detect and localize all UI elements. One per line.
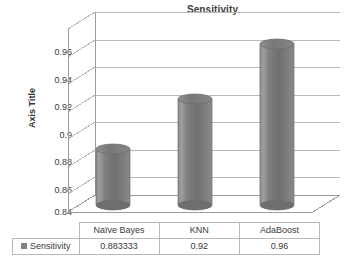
- table-row-values: Sensitivity 0.883333 0.92 0.96: [13, 239, 320, 255]
- bar-naive-bayes: [96, 144, 130, 210]
- table-value-adaboost: 0.96: [239, 239, 319, 255]
- gridline-0.96: [68, 40, 340, 57]
- legend-entry-sensitivity: Sensitivity: [13, 239, 80, 255]
- legend-swatch-icon: [21, 243, 27, 249]
- data-table: Naïve Bayes KNN AdaBoost Sensitivity 0.8…: [12, 222, 320, 255]
- table-header-knn: KNN: [159, 223, 239, 239]
- gridline-top: [68, 12, 340, 29]
- table-corner-cell: [13, 223, 80, 239]
- bar-knn: [178, 94, 212, 210]
- bar-adaboost: [260, 39, 294, 210]
- legend-label: Sensitivity: [30, 241, 71, 251]
- gridline-0.94: [68, 67, 340, 84]
- table-header-adaboost: AdaBoost: [239, 223, 319, 239]
- table-row-headers: Naïve Bayes KNN AdaBoost: [13, 223, 320, 239]
- chart-container: Sensitivity Axis Title 0.96 0.94 0.92 0.…: [0, 0, 349, 263]
- table-value-knn: 0.92: [159, 239, 239, 255]
- table-header-naive-bayes: Naïve Bayes: [79, 223, 159, 239]
- table-value-naive-bayes: 0.883333: [79, 239, 159, 255]
